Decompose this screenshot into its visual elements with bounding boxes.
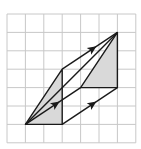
translation-diagram xyxy=(0,0,141,149)
vector-arrow-bottom-arrowhead-icon xyxy=(87,98,99,110)
